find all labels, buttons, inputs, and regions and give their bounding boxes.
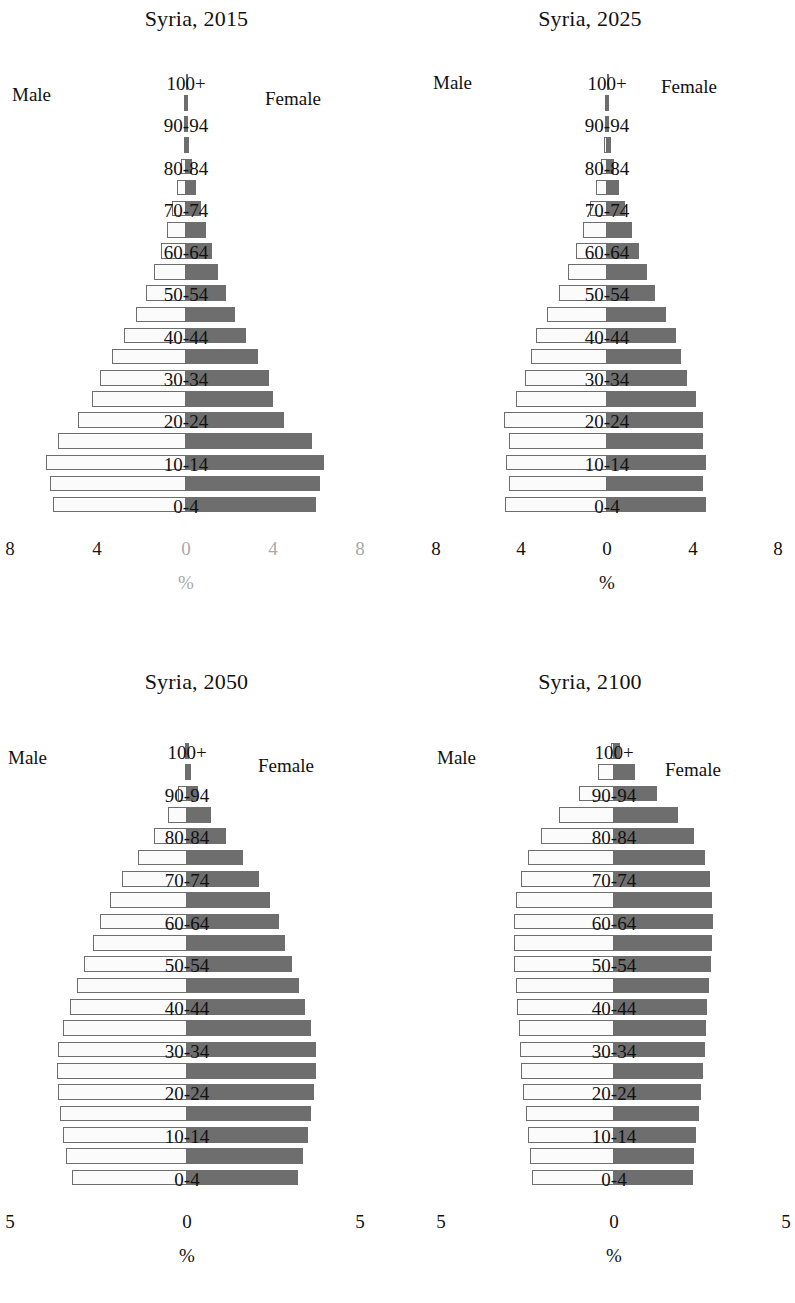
age-group-row: 70-74 (0, 871, 393, 887)
male-bar (528, 1127, 614, 1143)
female-bar (607, 201, 625, 217)
x-axis-tick: 0 (609, 1211, 619, 1233)
x-axis-unit-label: % (606, 1245, 622, 1267)
female-bar (607, 370, 687, 386)
age-group-row (0, 349, 393, 365)
female-bar (614, 1148, 694, 1164)
chart-title: Syria, 2100 (393, 669, 787, 695)
x-axis: 505 (0, 1211, 393, 1237)
male-bar (100, 914, 188, 930)
female-bar (186, 137, 189, 153)
male-bar (531, 349, 607, 365)
female-bar (607, 180, 619, 196)
female-bar (614, 956, 711, 972)
chart-title: Syria, 2050 (0, 669, 393, 695)
female-bar (187, 914, 279, 930)
age-group-row: 0-4 (393, 1170, 787, 1186)
age-group-row: 10-14 (393, 455, 787, 471)
x-axis: 84048 (0, 538, 393, 564)
age-group-row (0, 137, 393, 153)
age-group-row (0, 264, 393, 280)
age-group-row: 100+ (393, 74, 787, 90)
age-group-row (0, 433, 393, 449)
age-group-row (0, 892, 393, 908)
female-bar (187, 1106, 311, 1122)
male-bar (568, 264, 607, 280)
female-bar (614, 935, 712, 951)
female-bar (187, 935, 285, 951)
male-bar (509, 433, 607, 449)
age-group-row (393, 222, 787, 238)
female-bar (607, 412, 703, 428)
age-group-row (0, 850, 393, 866)
male-bar (590, 201, 607, 217)
age-group-row: 60-64 (0, 914, 393, 930)
age-group-row (0, 307, 393, 323)
age-group-row: 60-64 (0, 243, 393, 259)
x-axis-tick: 4 (268, 538, 278, 560)
female-bar (186, 243, 212, 259)
male-bar (77, 978, 187, 994)
female-bar (614, 828, 694, 844)
female-bar (614, 1084, 701, 1100)
age-group-row (393, 1106, 787, 1122)
age-group-row (393, 978, 787, 994)
male-bar (58, 1084, 188, 1100)
male-bar (559, 285, 607, 301)
age-group-row (0, 476, 393, 492)
pyramid-plot: 100+90-9480-8470-7460-6450-5440-4430-342… (393, 74, 787, 518)
x-axis-tick: 5 (5, 1211, 15, 1233)
age-group-row (393, 433, 787, 449)
age-group-row (393, 935, 787, 951)
chart-panel-2015: Syria, 2015 Male Female 100+90-9480-8470… (0, 0, 393, 651)
female-bar (186, 328, 246, 344)
male-bar (72, 1170, 188, 1186)
female-bar (607, 243, 639, 259)
female-bar (614, 1127, 696, 1143)
x-axis-tick: 8 (773, 538, 783, 560)
male-bar (583, 222, 607, 238)
male-bar (532, 1170, 614, 1186)
age-group-row (393, 764, 787, 780)
x-axis-unit-label: % (178, 572, 194, 594)
age-group-row: 50-54 (393, 285, 787, 301)
age-group-row (393, 137, 787, 153)
male-bar (93, 935, 188, 951)
x-axis-tick: 8 (355, 538, 365, 560)
age-group-row: 90-94 (0, 116, 393, 132)
female-bar (187, 1127, 308, 1143)
age-group-row (393, 1020, 787, 1036)
female-bar (186, 412, 284, 428)
female-bar (187, 764, 191, 780)
female-bar (187, 1063, 316, 1079)
age-group-row (393, 349, 787, 365)
age-group-row (393, 307, 787, 323)
age-group-row: 20-24 (0, 412, 393, 428)
male-bar (579, 786, 614, 802)
female-bar (607, 116, 609, 132)
female-bar (186, 307, 235, 323)
age-group-row (0, 764, 393, 780)
age-group-row: 10-14 (0, 455, 393, 471)
female-bar (186, 476, 320, 492)
pyramid-plot: 100+90-9480-8470-7460-6450-5440-4430-342… (0, 743, 393, 1191)
female-bar (614, 1020, 706, 1036)
age-group-row: 50-54 (393, 956, 787, 972)
age-group-row: 70-74 (393, 201, 787, 217)
male-bar (521, 871, 614, 887)
male-bar (161, 243, 186, 259)
age-group-row: 0-4 (0, 1170, 393, 1186)
female-bar (187, 999, 305, 1015)
female-bar (607, 264, 647, 280)
female-bar (607, 455, 706, 471)
x-axis-tick: 8 (5, 538, 15, 560)
female-bar (187, 807, 211, 823)
female-bar (187, 871, 259, 887)
male-bar (136, 307, 186, 323)
age-group-row (393, 391, 787, 407)
age-group-row: 40-44 (0, 328, 393, 344)
age-group-row: 100+ (393, 743, 787, 759)
age-group-row (393, 95, 787, 111)
female-bar (187, 1170, 298, 1186)
